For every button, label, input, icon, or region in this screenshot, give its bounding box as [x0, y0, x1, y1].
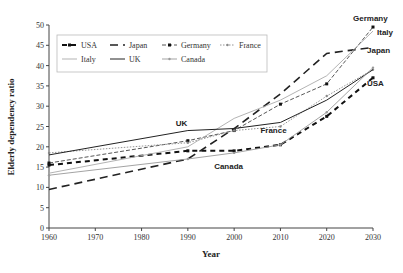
y-axis-title: Elderly dependency ratio [6, 78, 16, 175]
y-tick-label: 40 [36, 62, 44, 71]
x-tick-label: 1970 [87, 233, 103, 242]
legend-label-usa: USA [81, 41, 97, 50]
legend-marker [226, 44, 228, 46]
data-marker [279, 144, 281, 146]
annotation-uk: UK [176, 119, 188, 128]
y-tick-label: 20 [36, 143, 44, 152]
x-tick-label: 2010 [272, 233, 288, 242]
legend: USAJapanGermanyFranceItalyUKCanada [57, 35, 267, 72]
x-tick-label: 2030 [365, 233, 381, 242]
legend-marker [168, 44, 171, 47]
x-axis-title: Year [202, 249, 220, 259]
y-tick-label: 45 [36, 41, 44, 50]
data-marker [48, 174, 50, 176]
annotation-france: France [260, 126, 287, 135]
y-tick-label: 50 [36, 21, 44, 30]
y-tick-label: 0 [40, 224, 44, 233]
series-canada [49, 68, 373, 176]
series-france [49, 70, 373, 153]
data-marker [233, 152, 235, 154]
x-tick-label: 1980 [134, 233, 150, 242]
x-tick-label: 2020 [319, 233, 335, 242]
series-usa [49, 78, 373, 165]
annotation-germany: Germany [353, 14, 388, 23]
legend-label-japan: Japan [129, 41, 147, 50]
data-marker [48, 162, 51, 165]
data-marker [233, 129, 235, 131]
data-marker [279, 103, 282, 106]
data-marker [372, 66, 374, 68]
legend-label-italy: Italy [81, 55, 96, 64]
legend-marker [68, 44, 71, 47]
data-marker [187, 142, 189, 144]
annotation-canada: Canada [214, 162, 243, 171]
x-tick-label: 1990 [180, 233, 196, 242]
data-marker [326, 111, 328, 113]
series-uk [49, 70, 373, 155]
data-marker [48, 152, 50, 154]
data-marker [325, 82, 328, 85]
y-tick-label: 5 [40, 204, 44, 213]
annotation-japan: Japan [367, 46, 390, 55]
y-tick-label: 30 [36, 102, 44, 111]
y-tick-label: 15 [36, 163, 44, 172]
data-marker [372, 26, 375, 29]
data-marker [325, 115, 328, 118]
x-tick-label: 1960 [41, 233, 57, 242]
data-marker [326, 95, 328, 97]
y-tick-label: 25 [36, 123, 44, 132]
y-tick-label: 35 [36, 82, 44, 91]
legend-label-france: France [239, 41, 261, 50]
data-marker [186, 149, 189, 152]
legend-marker [168, 58, 170, 60]
annotation-italy: Italy [377, 28, 394, 37]
legend-label-canada: Canada [181, 55, 205, 64]
x-tick-label: 2000 [226, 233, 242, 242]
legend-label-uk: UK [129, 55, 141, 64]
annotation-usa: USA [367, 79, 384, 88]
line-chart: 0510152025303540455019601970198019902000… [0, 0, 403, 273]
y-tick-label: 10 [36, 183, 44, 192]
data-marker [187, 158, 189, 160]
legend-label-germany: Germany [181, 41, 211, 50]
